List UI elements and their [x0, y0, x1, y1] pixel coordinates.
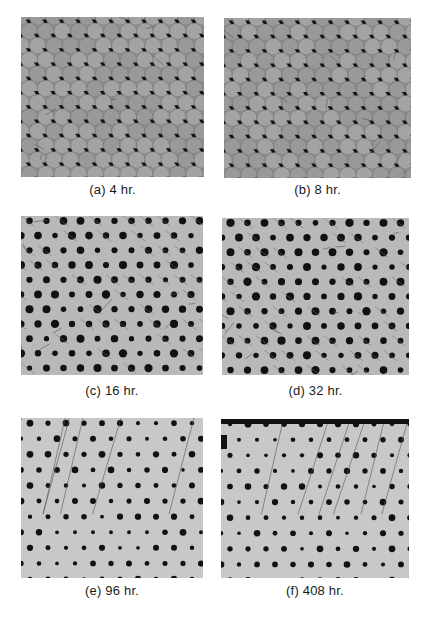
micrograph-panel-e	[21, 418, 203, 578]
caption-a: (a) 4 hr.	[21, 182, 204, 197]
caption-e: (e) 96 hr.	[21, 583, 203, 598]
caption-b: (b) 8 hr.	[224, 182, 411, 197]
micrograph-panel-b	[224, 18, 411, 178]
micrograph-panel-d	[222, 218, 409, 375]
micrograph-panel-a	[21, 17, 204, 177]
micrograph-panel-f	[221, 419, 409, 578]
caption-f: (f) 408 hr.	[221, 583, 409, 598]
micrograph-panel-c	[21, 216, 203, 375]
caption-c: (c) 16 hr.	[21, 383, 203, 398]
caption-d: (d) 32 hr.	[222, 383, 409, 398]
